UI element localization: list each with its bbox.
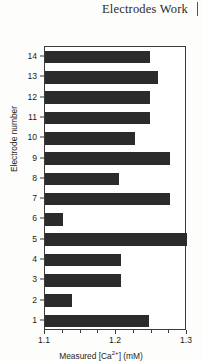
bar-electrode-6 [45, 213, 63, 226]
bar-electrode-10 [45, 132, 135, 145]
y-tick-label-2: 2 [32, 295, 37, 305]
bar-electrode-7 [45, 193, 170, 206]
bar-row [45, 209, 187, 229]
y-tick-label-6: 6 [32, 213, 37, 223]
bar-row [45, 230, 187, 250]
x-minor-tick-mark [97, 330, 98, 333]
bar-series [45, 47, 185, 329]
bar-row [45, 108, 187, 128]
bar-row [45, 169, 187, 189]
y-tick-label-8: 8 [32, 173, 37, 183]
bar-row [45, 67, 187, 87]
bar-row [45, 270, 187, 290]
bar-row [45, 290, 187, 310]
bar-row [45, 311, 187, 331]
y-tick-label-1: 1 [32, 315, 37, 325]
x-tick-mark-1.1 [44, 330, 45, 334]
y-tick-label-5: 5 [32, 234, 37, 244]
bar-row [45, 128, 187, 148]
bar-row [45, 47, 187, 67]
x-tick-mark-1.3 [186, 330, 187, 334]
bar-electrode-14 [45, 51, 150, 64]
bar-electrode-13 [45, 71, 158, 84]
bar-electrode-11 [45, 112, 150, 125]
x-minor-tick-mark [62, 330, 63, 333]
x-tick-mark-1.2 [115, 330, 116, 334]
bar-row [45, 189, 187, 209]
y-tick-label-14: 14 [27, 51, 37, 61]
bar-electrode-9 [45, 152, 170, 165]
bar-row [45, 88, 187, 108]
y-tick-label-11: 11 [28, 112, 37, 122]
x-minor-tick-mark [80, 330, 81, 333]
x-tick-label-1.1: 1.1 [38, 335, 50, 345]
x-tick-label-1.3: 1.3 [180, 335, 192, 345]
x-axis-title: Measured [Ca2+] (mM) [0, 350, 202, 361]
y-axis-title: Electrode number [9, 79, 19, 199]
bar-electrode-5 [45, 233, 187, 246]
x-axis-title-superscript: 2+ [112, 350, 119, 356]
bar-electrode-12 [45, 91, 150, 104]
y-tick-label-12: 12 [27, 92, 37, 102]
y-tick-label-10: 10 [27, 132, 37, 142]
y-tick-label-3: 3 [32, 274, 37, 284]
bar-row [45, 148, 187, 168]
y-tick-label-13: 13 [27, 71, 37, 81]
x-minor-tick-mark [151, 330, 152, 333]
y-axis: 1234567891011121314 [0, 46, 44, 330]
page-header: Electrodes Work [0, 0, 202, 22]
bar-electrode-1 [45, 315, 149, 328]
bar-electrode-3 [45, 274, 121, 287]
plot-area [44, 46, 186, 330]
x-tick-label-1.2: 1.2 [109, 335, 121, 345]
x-axis: Measured [Ca2+] (mM) 1.11.21.3 [44, 330, 186, 361]
y-tick-label-9: 9 [32, 153, 37, 163]
page-header-title: Electrodes Work [102, 2, 188, 17]
bar-electrode-4 [45, 254, 121, 267]
vertical-rule-icon [197, 2, 198, 16]
y-tick-label-7: 7 [32, 193, 37, 203]
x-minor-tick-mark [168, 330, 169, 333]
bar-chart: 1234567891011121314 Electrode number Mea… [0, 22, 202, 361]
bar-row [45, 250, 187, 270]
bar-electrode-2 [45, 294, 72, 307]
x-minor-tick-mark [133, 330, 134, 333]
y-tick-label-4: 4 [32, 254, 37, 264]
bar-electrode-8 [45, 173, 119, 186]
